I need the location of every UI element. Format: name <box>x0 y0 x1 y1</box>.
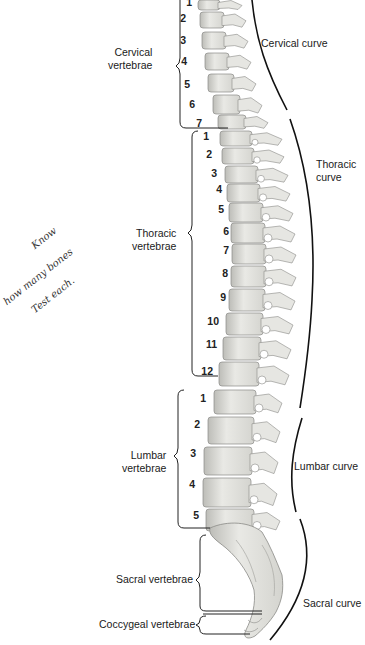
vertebra <box>229 289 295 311</box>
thoracic-vertebra-number: 2 <box>196 148 212 160</box>
cervical-vertebra-number: 3 <box>170 34 186 46</box>
lumbar-vertebra-number: 2 <box>184 418 200 430</box>
cervical-vertebrae-label: Cervical vertebrae <box>108 46 152 72</box>
vertebra <box>223 337 291 360</box>
spine-illustration <box>198 0 296 531</box>
cervical-vertebra-number: 7 <box>186 117 202 129</box>
label-line: vertebrae <box>108 59 152 72</box>
sacrum-coccyx <box>210 523 283 638</box>
lumbar-vertebra-number: 3 <box>180 447 196 459</box>
thoracic-vertebra-number: 7 <box>213 244 229 256</box>
cervical-curve-label: Cervical curve <box>261 37 328 50</box>
thoracic-vertebra-number: 6 <box>213 225 229 237</box>
vertebra <box>231 266 296 287</box>
thoracic-vertebra-number: 8 <box>212 267 228 279</box>
thoracic-vertebra-number: 4 <box>206 183 222 195</box>
cervical-vertebra-number: 1 <box>176 0 192 8</box>
label-line: Thoracic <box>132 227 176 240</box>
label-line: Cervical <box>108 46 152 59</box>
thoracic-curve-line <box>290 119 313 408</box>
lumbar-curve-label: Lumbar curve <box>294 460 358 473</box>
vertebra <box>220 131 282 146</box>
vertebra <box>229 203 293 222</box>
vertebra <box>219 362 289 386</box>
lumbar-vertebra-number: 5 <box>183 509 199 521</box>
label-line: Thoracic <box>316 158 356 171</box>
thoracic-vertebra-number: 9 <box>210 291 226 303</box>
vertebra <box>205 53 251 70</box>
thoracic-vertebra-number: 11 <box>201 338 217 350</box>
vertebra <box>232 244 296 264</box>
label-line: vertebrae <box>132 240 176 253</box>
thoracic-vertebra-number: 12 <box>197 365 213 377</box>
thoracic-vertebra-number: 3 <box>201 167 217 179</box>
lumbar-vertebra-number: 1 <box>190 392 206 404</box>
vertebra <box>198 0 242 10</box>
vertebra <box>218 115 268 129</box>
cervical-vertebra-number: 5 <box>174 78 190 90</box>
vertebra <box>226 313 293 335</box>
spine-diagram <box>0 0 365 645</box>
sacral-curve-label: Sacral curve <box>303 597 361 610</box>
cervical-vertebra-number: 6 <box>179 98 195 110</box>
vertebra <box>200 12 246 28</box>
vertebra <box>204 447 278 475</box>
thoracic-vertebrae-label: Thoracic vertebrae <box>132 227 176 253</box>
vertebra <box>227 184 290 202</box>
vertebra <box>202 32 248 49</box>
thoracic-vertebra-number: 5 <box>208 203 224 215</box>
vertebra <box>222 148 284 164</box>
coccygeal-bracket <box>196 616 250 634</box>
thoracic-vertebra-number: 1 <box>193 130 209 142</box>
vertebra <box>214 390 282 414</box>
cervical-vertebra-number: 2 <box>170 12 186 24</box>
cervical-curve-line <box>252 0 287 110</box>
label-line: curve <box>316 171 356 184</box>
sacral-vertebrae-label: Sacral vertebrae <box>116 573 193 586</box>
label-line: vertebrae <box>122 462 166 475</box>
vertebra <box>208 74 256 92</box>
lumbar-vertebrae-label: Lumbar vertebrae <box>122 449 166 475</box>
vertebra <box>203 478 277 507</box>
thoracic-curve-label: Thoracic curve <box>316 158 356 184</box>
vertebra <box>225 166 288 183</box>
lumbar-vertebra-number: 4 <box>179 478 195 490</box>
vertebra <box>231 223 295 243</box>
thoracic-vertebra-number: 10 <box>203 315 219 327</box>
vertebra <box>208 417 280 444</box>
vertebra <box>213 95 262 114</box>
label-line: Lumbar <box>122 449 166 462</box>
cervical-vertebra-number: 4 <box>171 55 187 67</box>
coccygeal-vertebrae-label: Coccygeal vertebrae <box>99 618 195 631</box>
